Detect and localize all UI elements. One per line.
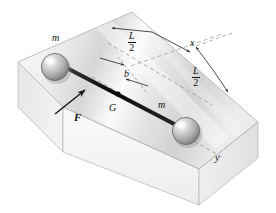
label-half-length-right: L 2 <box>192 66 200 88</box>
sphere-left-highlight <box>45 57 55 65</box>
half-length-right-numerator: L <box>192 66 200 76</box>
half-length-top-denominator: 2 <box>128 43 136 53</box>
label-half-length-top: L 2 <box>128 31 136 53</box>
sphere-right-body <box>172 117 199 144</box>
mechanics-diagram <box>0 0 276 213</box>
half-length-top-numerator: L <box>128 31 136 41</box>
label-force-F: F <box>74 112 81 123</box>
label-center-of-mass-G: G <box>109 103 116 113</box>
label-mass-right: m <box>158 100 165 110</box>
label-offset-b: b <box>124 69 129 79</box>
center-of-mass-point <box>115 91 120 96</box>
label-axis-x: x <box>190 38 194 48</box>
sphere-right-highlight <box>176 121 186 129</box>
sphere-left-body <box>41 53 68 80</box>
label-mass-left: m <box>52 33 59 43</box>
half-length-right-denominator: 2 <box>192 78 200 88</box>
label-axis-y: y <box>215 153 219 163</box>
dash-axis-x <box>196 33 232 46</box>
figure-canvas: m m F G b x y L 2 L 2 <box>0 0 276 213</box>
